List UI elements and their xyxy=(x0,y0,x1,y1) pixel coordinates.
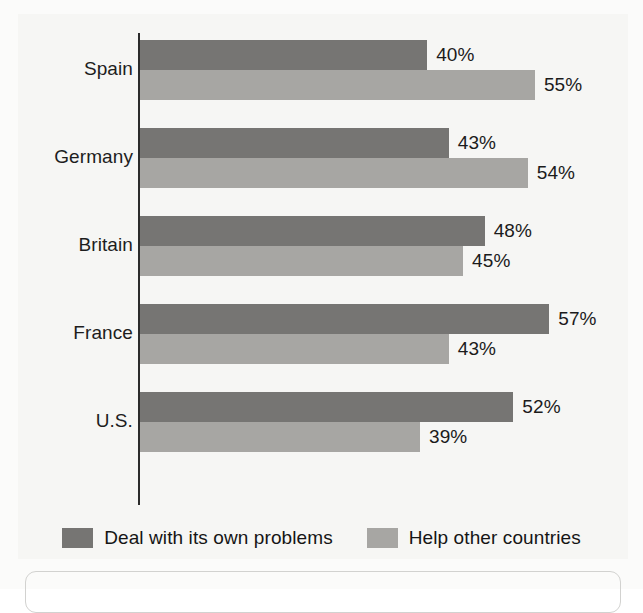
bar-us-series1 xyxy=(140,422,420,452)
bar-value-label: 43% xyxy=(458,132,496,154)
bar-france-series0 xyxy=(140,304,549,334)
category-label-britain: Britain xyxy=(0,234,133,256)
grouped-bar-chart: Spain40%55%Germany43%54%Britain48%45%Fra… xyxy=(0,0,643,512)
bar-value-label: 54% xyxy=(537,162,575,184)
bar-value-label: 43% xyxy=(458,338,496,360)
bar-spain-series0 xyxy=(140,40,427,70)
bar-row: 55% xyxy=(140,70,643,100)
bar-germany-series1 xyxy=(140,158,528,188)
bar-britain-series1 xyxy=(140,246,463,276)
legend-swatch-icon xyxy=(367,528,398,548)
legend-swatch-icon xyxy=(62,528,93,548)
bar-row: 54% xyxy=(140,158,643,188)
bar-spain-series1 xyxy=(140,70,535,100)
bar-group: Germany43%54% xyxy=(0,128,643,188)
bar-row: 52% xyxy=(140,392,643,422)
bar-row: 57% xyxy=(140,304,643,334)
bar-britain-series0 xyxy=(140,216,485,246)
bar-value-label: 39% xyxy=(429,426,467,448)
legend-label: Help other countries xyxy=(409,527,581,549)
bar-france-series1 xyxy=(140,334,449,364)
category-label-spain: Spain xyxy=(0,58,133,80)
bar-row: 40% xyxy=(140,40,643,70)
category-label-germany: Germany xyxy=(0,146,133,168)
bar-value-label: 52% xyxy=(522,396,560,418)
bar-row: 39% xyxy=(140,422,643,452)
legend-item-0[interactable]: Deal with its own problems xyxy=(62,527,333,549)
bar-group: Britain48%45% xyxy=(0,216,643,276)
category-label-us: U.S. xyxy=(0,410,133,432)
bar-value-label: 57% xyxy=(558,308,596,330)
legend-label: Deal with its own problems xyxy=(104,527,333,549)
bar-us-series0 xyxy=(140,392,513,422)
bar-group: France57%43% xyxy=(0,304,643,364)
bar-group: Spain40%55% xyxy=(0,40,643,100)
bar-row: 45% xyxy=(140,246,643,276)
bar-value-label: 48% xyxy=(494,220,532,242)
bar-germany-series0 xyxy=(140,128,449,158)
bar-value-label: 45% xyxy=(472,250,510,272)
bar-group: U.S.52%39% xyxy=(0,392,643,452)
bar-row: 48% xyxy=(140,216,643,246)
category-label-france: France xyxy=(0,322,133,344)
bar-value-label: 40% xyxy=(436,44,474,66)
bar-row: 43% xyxy=(140,128,643,158)
bar-row: 43% xyxy=(140,334,643,364)
legend-item-1[interactable]: Help other countries xyxy=(367,527,581,549)
bar-value-label: 55% xyxy=(544,74,582,96)
bottom-frame-border xyxy=(25,571,621,613)
chart-legend: Deal with its own problemsHelp other cou… xyxy=(0,521,643,555)
